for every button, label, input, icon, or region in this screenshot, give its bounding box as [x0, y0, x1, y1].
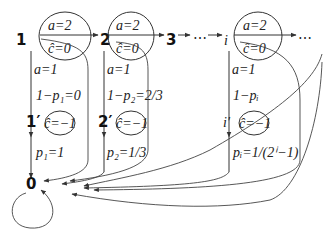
col2-p-label: p₂=1/3: [106, 145, 146, 160]
ellipsis-1: ⋯: [193, 31, 207, 46]
state-ip-value: ĉ=−1: [239, 116, 271, 131]
edge-ip-to-0: [84, 172, 229, 188]
col1-a-label: a=1: [34, 62, 57, 77]
col2-q-label: 1−p₂=2/3: [107, 88, 163, 103]
state-1-bottom: ĉ=0: [48, 41, 71, 56]
state-1-top: a=2: [48, 18, 71, 33]
col1-p-label: p₁=1: [35, 145, 64, 160]
state-1p-label: 1′: [26, 113, 40, 131]
state-i-label: i: [224, 33, 228, 48]
coli-a-label: a=1: [232, 62, 255, 77]
sink-0-label: 0: [26, 175, 36, 193]
state-ip-label: i′: [223, 115, 231, 130]
coli-q-label: 1−pᵢ: [233, 88, 259, 103]
state-1-label: 1: [16, 31, 26, 49]
sink-self-loop: [12, 190, 53, 228]
state-3-label: 3: [166, 31, 176, 49]
ellipsis-2: ⋯: [298, 31, 312, 46]
col1-q-label: 1−p₁=0: [36, 88, 81, 103]
coli-p-label: pᵢ=1/(2ⁱ−1): [232, 145, 299, 161]
edge-2p-to-0: [62, 172, 104, 184]
edge-next-to-0: [72, 62, 322, 206]
state-2p-label: 2′: [98, 113, 112, 131]
state-1p-value: ĉ=−1: [44, 116, 76, 131]
state-2-top: a=2: [116, 18, 139, 33]
state-2p-value: ĉ=−1: [116, 116, 148, 131]
col2-a-label: a=1: [107, 62, 130, 77]
state-i-top: a=2: [243, 18, 266, 33]
state-2-label: 2: [100, 31, 110, 49]
markov-chain-diagram: 1 a=2 ĉ=0 2 a=2 ĉ=0 3 ⋯ i a=2 ĉ=0 ⋯ a=1 …: [0, 0, 325, 235]
